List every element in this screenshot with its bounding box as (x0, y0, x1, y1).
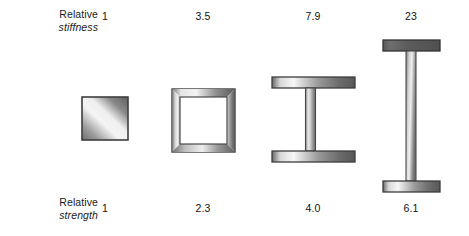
shape-hollow-box (172, 89, 235, 152)
shape-i-beam-short (272, 77, 355, 162)
shape-solid-square (82, 97, 128, 140)
cross-section-comparison-diagram: Relative stiffness Relative strength 1 3… (0, 0, 469, 236)
shape-i-beam-tall (383, 40, 440, 192)
cross-section-shapes-group (0, 0, 469, 236)
